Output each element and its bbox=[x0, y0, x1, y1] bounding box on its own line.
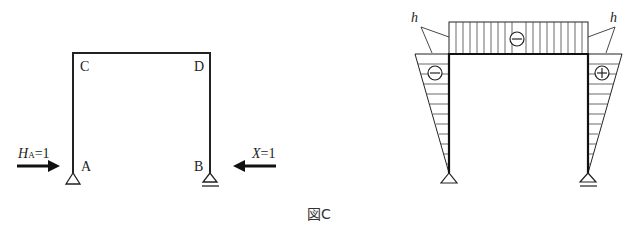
moment-roller-support-icon bbox=[580, 173, 596, 182]
magnitude-label-h-left: h bbox=[411, 10, 418, 25]
pin-support-a-icon bbox=[66, 173, 80, 184]
force-label-x: X=1 bbox=[251, 146, 275, 161]
roller-support-b-icon bbox=[203, 173, 217, 182]
moment-diagram: h h bbox=[411, 10, 622, 186]
figure-caption: 図C bbox=[307, 206, 331, 222]
node-label-c: C bbox=[80, 59, 89, 74]
structural-figure: C D A B HA=1 X=1 bbox=[0, 0, 639, 226]
magnitude-label-h-right: h bbox=[610, 10, 617, 25]
node-label-a: A bbox=[81, 159, 92, 174]
force-arrow-ha-icon bbox=[17, 160, 60, 172]
right-column-sign-plus-icon bbox=[595, 66, 609, 80]
node-label-b: B bbox=[194, 159, 203, 174]
left-column-sign-minus-icon bbox=[428, 66, 442, 80]
h-leader-right bbox=[588, 27, 615, 53]
h-leader-left bbox=[421, 27, 449, 53]
force-arrow-x-icon bbox=[233, 160, 276, 172]
beam-sign-minus-icon bbox=[510, 32, 524, 46]
node-label-d: D bbox=[194, 59, 204, 74]
moment-frame-members bbox=[449, 54, 588, 173]
force-label-ha: HA=1 bbox=[17, 146, 50, 161]
moment-pin-support-icon bbox=[441, 173, 457, 183]
left-frame: C D A B HA=1 X=1 bbox=[17, 53, 276, 186]
frame-members bbox=[73, 53, 210, 173]
